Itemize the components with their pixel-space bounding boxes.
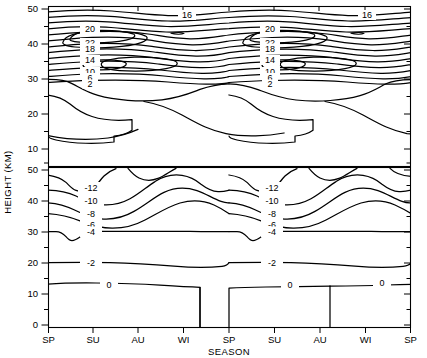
contour-label-m4-a: -4 <box>87 227 95 237</box>
contour-label-18-a: 18 <box>85 44 95 54</box>
contour-label-0-c: 0 <box>379 278 384 288</box>
contour-label-m2-b: -2 <box>268 258 276 268</box>
contour-label-m4-b: -4 <box>268 227 276 237</box>
contour-label-m12-b: -12 <box>265 183 278 193</box>
contour-label-m2-a: -2 <box>87 258 95 268</box>
xtick-sp-3: SP <box>404 334 417 345</box>
xtick-au-2: AU <box>313 334 326 345</box>
lower-panel-contour-labels: -12 -10 -8 -6 -4 -2 0 -12 -10 -8 -6 -4 -… <box>78 182 391 290</box>
contour-label-20-a: 20 <box>85 24 95 34</box>
y-axis-title: HEIGHT (KM) <box>2 150 13 213</box>
upper-ytick-20: 20 <box>27 108 38 119</box>
y-axis-title-text: HEIGHT (KM) <box>2 150 13 213</box>
lower-ytick-30: 30 <box>27 226 38 237</box>
contour-label-m12-a: -12 <box>84 183 97 193</box>
upper-ytick-30: 30 <box>27 73 38 84</box>
xtick-su-1: SU <box>86 334 99 345</box>
upper-ytick-40: 40 <box>27 38 38 49</box>
lower-ytick-20: 20 <box>27 257 38 268</box>
upper-panel-contours <box>48 10 411 143</box>
contour-label-2-a: 2 <box>87 79 92 89</box>
upper-panel-top-ticks <box>93 7 365 12</box>
contour-label-m10-b: -10 <box>265 196 278 206</box>
xtick-wi-2: WI <box>360 334 372 345</box>
xtick-au-1: AU <box>131 334 144 345</box>
contour-label-20-b: 20 <box>265 24 275 34</box>
contour-figure: HEIGHT (KM) 50 40 30 20 10 <box>0 0 427 358</box>
lower-ytick-0: 0 <box>33 319 38 330</box>
upper-ytick-50: 50 <box>27 3 38 14</box>
contour-label-0-a: 0 <box>106 280 111 290</box>
xtick-sp-1: SP <box>42 334 55 345</box>
xtick-sp-2: SP <box>223 334 236 345</box>
contour-label-14-b: 14 <box>265 55 275 65</box>
contour-label-14-a: 14 <box>85 55 95 65</box>
xtick-wi-1: WI <box>178 334 190 345</box>
upper-ytick-10: 10 <box>27 143 38 154</box>
contour-label-m10-a: -10 <box>84 196 97 206</box>
x-axis-title: SEASON <box>208 346 250 357</box>
contour-label-16-b: 16 <box>362 10 372 20</box>
contour-label-2-b: 2 <box>267 79 272 89</box>
contour-label-0-b: 0 <box>287 280 292 290</box>
xtick-su-2: SU <box>268 334 281 345</box>
contour-label-m8-b: -8 <box>268 209 276 219</box>
lower-ytick-40: 40 <box>27 195 38 206</box>
contour-label-16-a: 16 <box>182 10 192 20</box>
lower-ytick-10: 10 <box>27 288 38 299</box>
contour-label-18-b: 18 <box>265 44 275 54</box>
x-axis: SP SU AU WI SP SU AU WI SP SEASON <box>42 328 417 358</box>
contour-label-m8-a: -8 <box>87 209 95 219</box>
figure-root: HEIGHT (KM) 50 40 30 20 10 <box>0 0 427 358</box>
lower-ytick-50: 50 <box>27 164 38 175</box>
